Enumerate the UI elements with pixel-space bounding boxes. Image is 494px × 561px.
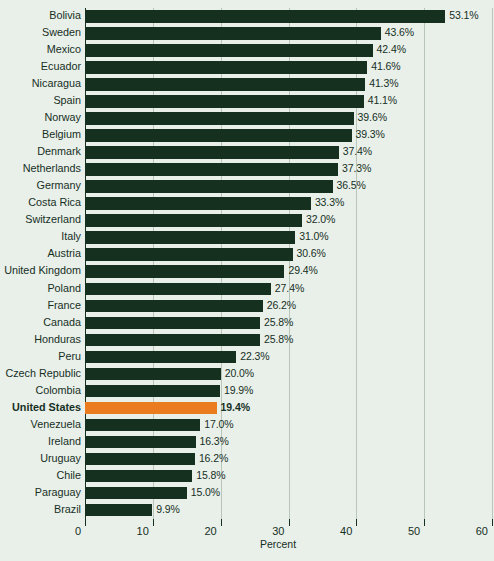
category-axis: BoliviaSwedenMexicoEcuadorNicaraguaSpain… bbox=[0, 8, 81, 519]
bar[interactable] bbox=[85, 487, 187, 500]
bar-row[interactable]: 15.8% bbox=[85, 468, 492, 485]
bar[interactable] bbox=[85, 10, 445, 23]
bar[interactable] bbox=[85, 248, 293, 261]
category-label: United States bbox=[12, 400, 81, 415]
category-label: Costa Rica bbox=[28, 195, 81, 210]
category-label: Venezuela bbox=[31, 417, 81, 432]
bar[interactable] bbox=[85, 214, 302, 227]
bar[interactable] bbox=[85, 112, 354, 125]
category-label: Peru bbox=[58, 349, 81, 364]
bar-row[interactable]: 15.0% bbox=[85, 485, 492, 502]
bar-value-label: 9.9% bbox=[152, 503, 180, 516]
bar-value-label: 37.4% bbox=[339, 145, 372, 158]
bar[interactable] bbox=[85, 385, 220, 398]
bar[interactable] bbox=[85, 180, 333, 193]
bar[interactable] bbox=[85, 265, 284, 278]
bar[interactable] bbox=[85, 61, 367, 74]
category-label: Czech Republic bbox=[5, 366, 81, 381]
category-label-row: Czech Republic bbox=[0, 366, 81, 383]
bar-row[interactable]: 9.9% bbox=[85, 502, 492, 519]
bar[interactable] bbox=[85, 129, 352, 142]
bar-value-label: 41.3% bbox=[365, 77, 398, 90]
bar[interactable] bbox=[85, 197, 311, 210]
bar-highlighted[interactable] bbox=[85, 402, 217, 415]
bar-value-label: 36.5% bbox=[333, 179, 366, 192]
bar-value-label: 41.1% bbox=[364, 94, 397, 107]
bar[interactable] bbox=[85, 163, 338, 176]
bar-value-label: 26.2% bbox=[263, 299, 296, 312]
bar[interactable] bbox=[85, 504, 152, 517]
bar-row[interactable]: 17.0% bbox=[85, 417, 492, 434]
category-label: Germany bbox=[37, 178, 81, 193]
bar-row[interactable]: 53.1% bbox=[85, 8, 492, 25]
bar-row[interactable]: 37.3% bbox=[85, 161, 492, 178]
x-tick-label: 0 bbox=[75, 524, 83, 538]
bar[interactable] bbox=[85, 283, 271, 296]
bar[interactable] bbox=[85, 470, 192, 483]
bar-value-label: 30.6% bbox=[293, 247, 326, 260]
x-tick-label: 50 bbox=[408, 524, 422, 538]
bar-value-label: 15.0% bbox=[187, 486, 220, 499]
x-tick-label: 40 bbox=[340, 524, 354, 538]
bar-row[interactable]: 41.3% bbox=[85, 76, 492, 93]
bar[interactable] bbox=[85, 419, 200, 432]
bar-row[interactable]: 29.4% bbox=[85, 263, 492, 280]
bar[interactable] bbox=[85, 231, 295, 244]
category-label-row: Italy bbox=[0, 229, 81, 246]
bar[interactable] bbox=[85, 351, 236, 364]
bar[interactable] bbox=[85, 95, 364, 108]
bar-row[interactable]: 30.6% bbox=[85, 246, 492, 263]
bar-row[interactable]: 33.3% bbox=[85, 195, 492, 212]
bar-row[interactable]: 37.4% bbox=[85, 144, 492, 161]
bar-rows: 53.1%43.6%42.4%41.6%41.3%41.1%39.6%39.3%… bbox=[85, 8, 492, 519]
category-label: Poland bbox=[47, 281, 81, 296]
bar[interactable] bbox=[85, 453, 195, 466]
bar[interactable] bbox=[85, 334, 260, 347]
x-tick-mark bbox=[424, 519, 425, 526]
category-label: Uruguay bbox=[40, 451, 81, 466]
bar-row[interactable]: 27.4% bbox=[85, 281, 492, 298]
bar[interactable] bbox=[85, 146, 339, 159]
bar-row[interactable]: 16.3% bbox=[85, 434, 492, 451]
x-tick-mark bbox=[221, 519, 222, 526]
bar-row[interactable]: 41.1% bbox=[85, 93, 492, 110]
bar[interactable] bbox=[85, 368, 221, 381]
bar-row[interactable]: 39.3% bbox=[85, 127, 492, 144]
bar-row[interactable]: 25.8% bbox=[85, 332, 492, 349]
bar[interactable] bbox=[85, 436, 196, 449]
bar-row[interactable]: 31.0% bbox=[85, 229, 492, 246]
bar-row[interactable]: 19.9% bbox=[85, 383, 492, 400]
bar-row[interactable]: 42.4% bbox=[85, 42, 492, 59]
category-label: Chile bbox=[56, 468, 81, 483]
bar-row[interactable]: 20.0% bbox=[85, 366, 492, 383]
bar-row[interactable]: 41.6% bbox=[85, 59, 492, 76]
category-label-row: Uruguay bbox=[0, 451, 81, 468]
category-label-row: Ecuador bbox=[0, 59, 81, 76]
category-label: Sweden bbox=[42, 25, 81, 40]
bar[interactable] bbox=[85, 78, 365, 91]
bar-row[interactable]: 36.5% bbox=[85, 178, 492, 195]
bar-row[interactable]: 25.8% bbox=[85, 315, 492, 332]
bar-row[interactable]: 43.6% bbox=[85, 25, 492, 42]
category-label: Bolivia bbox=[49, 8, 81, 23]
category-label: Colombia bbox=[35, 383, 81, 398]
x-axis-label: Percent bbox=[0, 538, 494, 550]
category-label-row: Brazil bbox=[0, 502, 81, 519]
x-tick-mark bbox=[492, 519, 493, 526]
bar-row[interactable]: 32.0% bbox=[85, 212, 492, 229]
bar[interactable] bbox=[85, 317, 260, 330]
bar-row[interactable]: 16.2% bbox=[85, 451, 492, 468]
category-label: Canada bbox=[43, 315, 81, 330]
bar-row[interactable]: 39.6% bbox=[85, 110, 492, 127]
bar-value-label: 42.4% bbox=[373, 43, 406, 56]
category-label: Austria bbox=[47, 246, 81, 261]
bar-row[interactable]: 19.4% bbox=[85, 400, 492, 417]
bar-row[interactable]: 22.3% bbox=[85, 349, 492, 366]
bar[interactable] bbox=[85, 27, 381, 40]
category-label-row: Costa Rica bbox=[0, 195, 81, 212]
category-label: Denmark bbox=[37, 144, 81, 159]
category-label: United Kingdom bbox=[4, 263, 81, 278]
bar[interactable] bbox=[85, 44, 373, 57]
bar-row[interactable]: 26.2% bbox=[85, 298, 492, 315]
bar[interactable] bbox=[85, 300, 263, 313]
